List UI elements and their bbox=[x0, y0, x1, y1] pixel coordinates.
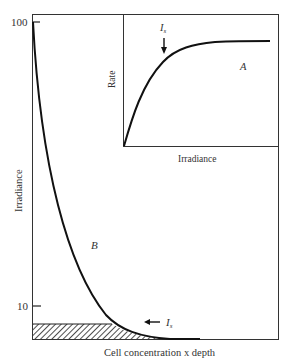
is-label-main: Is bbox=[165, 316, 173, 330]
y-tick-label-100: 100 bbox=[11, 16, 28, 28]
main-y-axis-label: Irradiance bbox=[13, 169, 24, 212]
curve-b-label: B bbox=[91, 239, 98, 251]
chart-figure: 100 10 Irradiance B Is Cell concentratio… bbox=[0, 0, 286, 362]
hatched-region bbox=[33, 324, 165, 339]
arrow-left-icon bbox=[144, 319, 150, 325]
inset-plot-frame bbox=[124, 15, 279, 147]
main-x-axis-label: Cell concentration x depth bbox=[104, 347, 216, 358]
curve-a-label: A bbox=[239, 61, 247, 72]
inset-x-axis-label: Irradiance bbox=[178, 154, 217, 164]
y-tick-label-10: 10 bbox=[17, 300, 29, 312]
inset-y-axis-label: Rate bbox=[107, 71, 117, 88]
